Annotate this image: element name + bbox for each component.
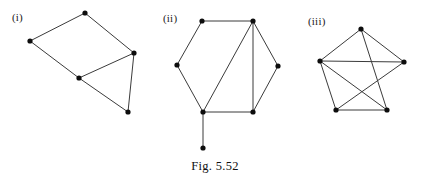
graph-edge [30,13,85,41]
graph-vertex [200,109,205,114]
graph-label-iii: (iii) [308,16,326,27]
graph-edge [320,61,387,110]
graph-edge [361,29,404,62]
graph-edge [30,41,79,78]
graph-vertex [317,58,322,63]
graph-i [27,10,136,114]
graph-vertex [27,38,32,43]
graph-edge [336,62,404,110]
graph-vertex [199,18,204,23]
graph-edge [320,61,336,110]
graph-edge [253,21,278,66]
graph-edge [177,65,203,112]
graph-vertex [131,50,136,55]
graph-vertex [174,62,179,67]
graph-vertex [250,109,255,114]
graph-vertex [333,107,338,112]
graph-edge [320,61,404,62]
graph-vertex [384,107,389,112]
graph-edge [79,78,128,112]
graph-label-ii: (ii) [163,13,177,24]
graph-edge [79,53,134,78]
graph-vertex [401,59,406,64]
graph-vertex [358,26,363,31]
graph-vertex [76,75,81,80]
graph-ii-vertices [174,18,280,150]
graph-edge [85,13,134,53]
graph-vertex [250,18,255,23]
figure-container: (i) (ii) (iii) Fig. 5.52 [0,0,430,188]
graph-edge [361,29,387,110]
graph-vertex [275,63,280,68]
graph-edge [320,29,361,61]
graph-iii-edges [320,29,404,110]
graph-edge [128,53,134,112]
graph-edge [177,21,202,65]
figure-caption: Fig. 5.52 [0,160,430,174]
graph-ii-edges [177,21,278,148]
graph-iii [317,26,406,112]
graph-edge [203,21,253,112]
graph-i-vertices [27,10,136,114]
graph-i-edges [30,13,134,112]
graph-edge [253,66,278,112]
graph-vertex [200,145,205,150]
graph-ii [174,18,280,150]
graph-vertex [125,109,130,114]
graph-vertex [82,10,87,15]
graph-label-i: (i) [12,12,23,23]
